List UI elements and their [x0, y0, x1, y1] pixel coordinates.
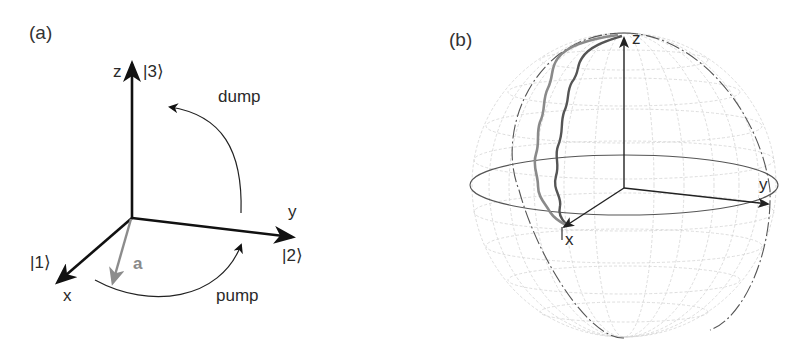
vector-a-label: a	[133, 255, 142, 272]
bloch-z-label: z	[632, 30, 641, 47]
state-2-label: |2⟩	[282, 247, 303, 264]
pump-label: pump	[216, 287, 259, 304]
meridian-y	[624, 33, 770, 330]
z-axis-label: z	[113, 63, 122, 80]
dump-arrow	[170, 107, 241, 213]
bloch-sphere	[440, 0, 811, 356]
vector-a	[113, 219, 131, 282]
bloch-y-axis	[624, 188, 768, 204]
x-axis-label: x	[63, 287, 72, 304]
bloch-y-label: y	[759, 176, 768, 193]
y-axis-label: y	[288, 203, 297, 220]
state-3-label: |3⟩	[143, 63, 164, 80]
panel-b: (b)	[440, 0, 811, 356]
dump-label: dump	[218, 88, 261, 105]
y-axis	[132, 218, 292, 237]
meridian-x	[512, 33, 624, 338]
bloch-x-label: x	[565, 231, 574, 248]
trajectories	[535, 35, 622, 225]
trajectory-2	[535, 35, 618, 225]
state-1-label: |1⟩	[30, 254, 51, 271]
axes-diagram	[0, 0, 330, 356]
panel-a: (a)	[0, 0, 330, 356]
